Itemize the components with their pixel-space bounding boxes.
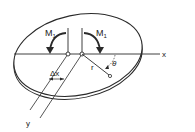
plate-diagram: x y M1 M1 Δx r θ <box>0 0 195 132</box>
radius-end-point <box>108 74 111 77</box>
hinge-point-left <box>66 52 70 56</box>
delta-x-label: Δx <box>50 69 59 78</box>
angle-label: θ <box>112 59 117 68</box>
y-axis-label: y <box>26 119 30 128</box>
plate-shape <box>6 2 150 110</box>
plate-top-edge <box>6 2 150 107</box>
x-axis-label: x <box>162 50 166 59</box>
radius-label: r <box>91 63 94 72</box>
